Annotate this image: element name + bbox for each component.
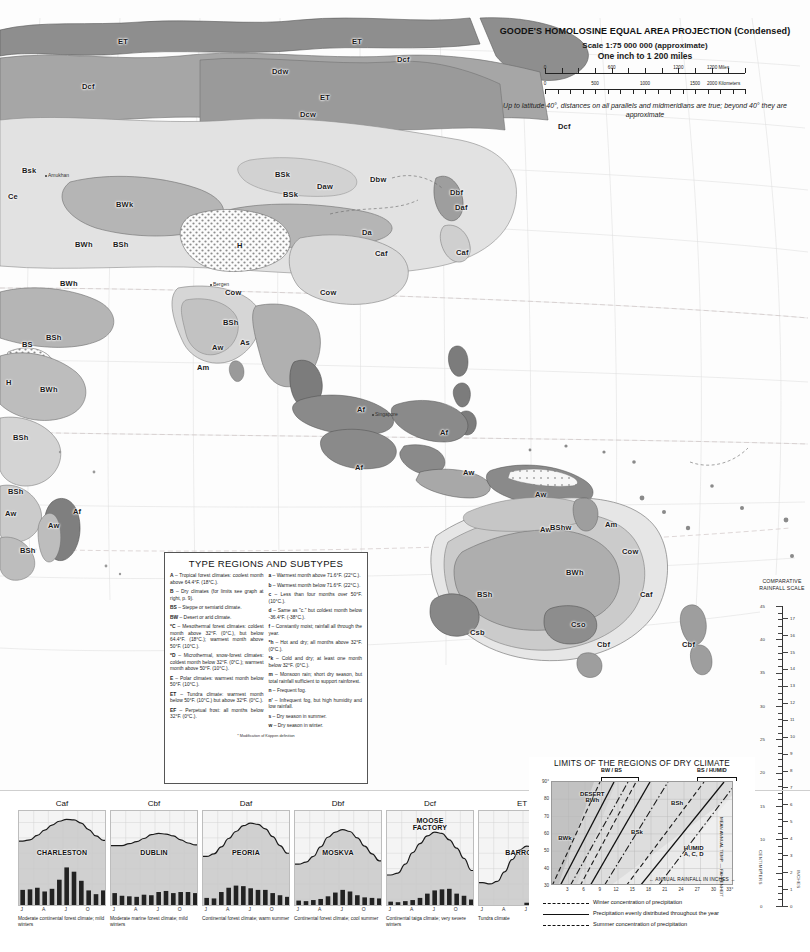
rainfall-cm-minor-tick xyxy=(778,713,782,714)
scale-tick xyxy=(645,68,646,73)
map-climate-code: Dcf xyxy=(82,82,95,91)
scale-tick xyxy=(720,89,721,94)
climograph-month-axis: JAJO xyxy=(386,906,474,915)
map-climate-code: Caf xyxy=(375,249,388,258)
map-climate-code: As xyxy=(240,338,250,347)
scale-tick xyxy=(745,89,746,94)
dry-graph-y-tick: 90° xyxy=(542,779,549,784)
scale-tick xyxy=(670,89,671,94)
climograph-caption: Continental forest climate; warm summer xyxy=(202,916,290,922)
map-climate-code: Dcw xyxy=(300,110,316,119)
scale-label: 600 xyxy=(608,65,616,70)
scale-tick xyxy=(620,89,621,94)
map-climate-code: Af xyxy=(355,463,363,472)
rainfall-cm-minor-tick xyxy=(778,633,782,634)
map-climate-code: H xyxy=(6,378,12,387)
scale-tick xyxy=(662,68,663,73)
legend-column-subtypes: a – Warmest month above 71.6°F. (22°C.).… xyxy=(269,573,363,733)
climograph-city: MOSKVA xyxy=(295,849,381,856)
map-city-dot xyxy=(45,175,47,177)
legend-type-entry: *D – Microthermal, snow-forest climates:… xyxy=(170,653,264,673)
scale-tick xyxy=(745,68,746,73)
rainfall-cm-tick xyxy=(776,673,782,674)
map-climate-code: Aw xyxy=(5,509,17,518)
climograph: CbfDUBLINJAJOModerate marine forest clim… xyxy=(110,799,198,929)
rainfall-cm-label: 45 xyxy=(760,604,765,609)
rainfall-cm-minor-tick xyxy=(778,699,782,700)
climograph-month-tick: O xyxy=(270,906,274,912)
climograph-month-axis: JAJO xyxy=(110,906,198,915)
legend-subtype-entry: n' – Infrequent fog, but high humidity a… xyxy=(269,698,363,711)
legend-subtype-entry: b – Warmest month below 71.6°F. (22°C.). xyxy=(269,583,363,590)
scale-bar-miles: 060012001200 Miles xyxy=(545,65,745,81)
map-climate-code: BWh xyxy=(75,240,93,249)
map-climate-code: BWk xyxy=(116,200,133,209)
scale-tick xyxy=(583,89,584,94)
dry-graph-y-caption: MEAN ANNUAL TEMP. — FAHRENHEIT xyxy=(719,817,724,897)
scale-label: 0 xyxy=(544,65,547,70)
rainfall-in-tick xyxy=(782,618,788,619)
map-climate-code: BSk xyxy=(275,170,290,179)
dry-climate-graph: LIMITS OF THE REGIONS OF DRY CLIMATE xyxy=(529,757,755,952)
climograph-month-tick: J xyxy=(204,906,207,912)
climograph-plot: PEORIA xyxy=(202,810,290,906)
rainfall-cm-minor-tick xyxy=(778,666,782,667)
legend-subtype-entry: s – Dry season in summer. xyxy=(269,714,363,721)
legend-subtype-entry: f – Constantly moist; rainfall all throu… xyxy=(269,624,363,637)
climograph-plot: CHARLESTON90°805032144-22-40 xyxy=(18,810,106,906)
map-climate-code: Aw xyxy=(463,468,475,477)
projection-title: GOODE'S HOMOLOSINE EQUAL AREA PROJECTION… xyxy=(485,26,805,36)
climograph-month-tick: J xyxy=(432,906,435,912)
climograph-month-axis: JAJO xyxy=(202,906,290,915)
climograph-caption: Moderate marine forest climate; mild win… xyxy=(110,916,198,929)
map-climate-code: Daf xyxy=(455,203,468,212)
dry-graph-x-tick: 27 xyxy=(695,887,700,892)
dry-graph-region-label: BSk xyxy=(631,829,643,835)
scale-tick xyxy=(545,89,546,94)
dry-graph-region-label: HUMID A, C, D xyxy=(684,845,704,857)
dry-graph-y-tick: 80 xyxy=(544,796,549,801)
map-climate-code: ET xyxy=(320,93,330,102)
climograph-month-tick: A xyxy=(134,906,137,912)
scale-label: 500 xyxy=(591,81,599,86)
rainfall-scale-title: COMPARATIVE RAINFALL SCALE xyxy=(756,578,808,592)
scale-tick xyxy=(645,89,646,94)
projection-info: GOODE'S HOMOLOSINE EQUAL AREA PROJECTION… xyxy=(485,26,805,120)
rainfall-cm-label: 30 xyxy=(760,704,765,709)
dry-graph-x-tick: 9 xyxy=(598,887,601,892)
legend-type-entry: B – Dry climates (for limits see graph a… xyxy=(170,589,264,602)
climograph-plot: MOSKVA xyxy=(294,810,382,906)
climograph-caption: Moderate continental forest climate; mil… xyxy=(18,916,106,929)
climograph-month-tick: A xyxy=(318,906,321,912)
rainfall-cm-tick xyxy=(776,606,782,607)
climograph-code: Dcf xyxy=(386,799,474,808)
map-climate-code: Ce xyxy=(8,192,18,201)
rainfall-cm-tick xyxy=(776,739,782,740)
scale-tick xyxy=(562,68,563,73)
dry-graph-x-tick: 21 xyxy=(662,887,667,892)
climograph-month-tick: J xyxy=(156,906,159,912)
dry-graph-x-tick: 6 xyxy=(582,887,585,892)
climograph-city: DUBLIN xyxy=(111,849,197,856)
scale-tick xyxy=(708,89,709,94)
dry-graph-key-line xyxy=(543,914,589,915)
map-climate-code: Caf xyxy=(456,248,469,257)
scale-tick xyxy=(595,68,596,73)
scale-tick xyxy=(558,89,559,94)
map-climate-code: Dcf xyxy=(558,122,571,131)
dry-graph-key-label: Precipitation evenly distributed through… xyxy=(593,910,719,916)
rainfall-cm-minor-tick xyxy=(778,646,782,647)
dry-graph-x-tick: 18 xyxy=(646,887,651,892)
map-climate-code: Daw xyxy=(317,182,333,191)
rainfall-cm-label: 25 xyxy=(760,737,765,742)
rainfall-cm-label: 20 xyxy=(760,770,765,775)
dry-graph-bracket xyxy=(697,777,737,781)
legend-subtype-entry: *k – Cold and dry; at least one month be… xyxy=(269,656,363,669)
scale-label: 1200 Miles xyxy=(707,65,729,70)
dry-graph-key-label: Winter concentration of precipitation xyxy=(593,899,682,905)
map-climate-code: Dbw xyxy=(370,175,386,184)
climograph-month-tick: A xyxy=(410,906,413,912)
rainfall-in-label: 8 xyxy=(790,768,792,773)
scale-tick xyxy=(695,89,696,94)
dry-graph-bracket-label: BW / BS xyxy=(601,767,622,773)
